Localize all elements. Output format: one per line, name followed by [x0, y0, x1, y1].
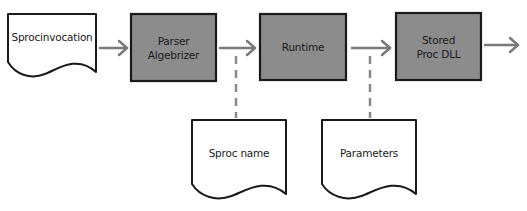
label-runtime: Runtime — [260, 14, 346, 80]
label-sproc-invocation: Sprocinvocation — [8, 20, 96, 54]
label-stored-proc-dll: Stored Proc DLL — [396, 13, 481, 80]
label-parameters: Parameters — [322, 138, 416, 168]
label-sproc-name: Sproc name — [192, 138, 286, 168]
flow-diagram: Sprocinvocation Parser Algebrizer Runtim… — [0, 0, 527, 211]
label-parser-algebrizer: Parser Algebrizer — [131, 14, 216, 81]
